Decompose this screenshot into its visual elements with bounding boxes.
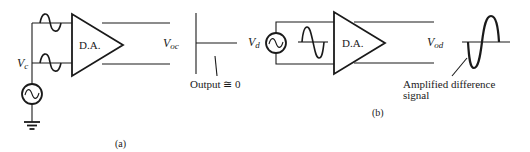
output-annotation-b-line2: signal (403, 89, 429, 101)
output-annotation-leader-b (452, 58, 467, 76)
output-annotation-leader-a (215, 56, 217, 76)
bottom-input-wire-b (276, 53, 334, 64)
ac-source-sine-glyph (25, 90, 39, 99)
differential-amplifier-diagram: Vc D.A. Voc Output ≅ 0 (a) (0, 0, 530, 152)
amplifier-label-b: D.A. (342, 37, 364, 49)
output-label-vod: Vod (427, 35, 444, 50)
output-annotation-a: Output ≅ 0 (190, 78, 241, 90)
panel-a: Vc D.A. Voc Output ≅ 0 (a) (17, 13, 241, 150)
ac-source-sine-glyph-b (269, 39, 283, 48)
panel-b: Vd D.A. Vod Amplified difference signal … (248, 12, 510, 119)
amplifier-label-a: D.A. (79, 39, 101, 51)
panel-label-b: (b) (372, 107, 384, 119)
output-label-voc: Voc (163, 36, 179, 51)
ground-icon (24, 122, 40, 129)
source-label-vd: Vd (248, 35, 260, 50)
source-label-vc: Vc (17, 56, 28, 71)
panel-label-a: (a) (115, 138, 126, 150)
